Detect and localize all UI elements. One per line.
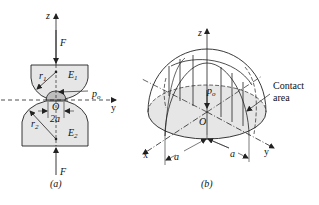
x-axis-label: x — [143, 149, 148, 160]
origin-label: O — [52, 101, 59, 112]
radius-a-right-label: a — [230, 148, 235, 159]
width-2a-label: 2a — [50, 113, 60, 124]
contact-area-label-line2: area — [273, 92, 290, 103]
y-axis-label-b: y — [264, 146, 269, 157]
dimension-a-right — [238, 153, 248, 158]
caption-a: (a) — [50, 178, 62, 190]
z-axis-label: z — [45, 10, 50, 21]
contact-area-label-line1: Contact — [273, 80, 304, 91]
radius-a-left-label: a — [174, 151, 179, 162]
z-axis-label-b: z — [197, 27, 202, 38]
pressure-po-label: po — [91, 88, 101, 101]
panel-a: z F F r1 E1 po y O 2a r2 E2 (a) — [1, 10, 116, 190]
panel-b: z po O x y a a Contact area (b) — [142, 27, 304, 190]
y-axis-label: y — [111, 102, 116, 113]
caption-b: (b) — [201, 178, 213, 190]
hertz-contact-figure: z F F r1 E1 po y O 2a r2 E2 (a) — [0, 0, 319, 205]
force-bottom-label: F — [59, 166, 67, 177]
origin-label-b: O — [199, 116, 206, 127]
force-top-label: F — [59, 37, 67, 48]
